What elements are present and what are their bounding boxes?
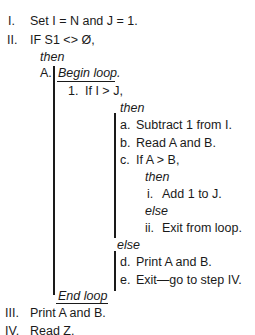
else-keyword: else	[117, 238, 140, 252]
step-c-marker: c.	[120, 153, 130, 167]
begin-loop-label: Begin loop.	[58, 66, 121, 80]
then-keyword: then	[40, 50, 64, 64]
step-I-text: Set I = N and J = 1.	[30, 14, 138, 28]
step-ii-marker: ii.	[145, 221, 154, 235]
end-loop-underline	[56, 303, 108, 304]
step-III-marker: III.	[5, 306, 19, 320]
step-I-marker: I.	[8, 14, 15, 28]
then-keyword: then	[145, 170, 169, 184]
step-A-marker: A.	[40, 66, 52, 80]
step-e-marker: e.	[120, 273, 130, 287]
step-i-text: Add 1 to J.	[162, 187, 222, 201]
step-c-text: If A > B,	[136, 153, 179, 167]
else-keyword: else	[145, 204, 168, 218]
then-keyword: then	[120, 101, 144, 115]
step-a-marker: a.	[120, 118, 130, 132]
step-II-text: IF S1 <> Ø,	[30, 33, 95, 47]
step-IV-marker: IV.	[5, 324, 19, 335]
step-ii-text: Exit from loop.	[162, 221, 242, 235]
step-1-marker: 1.	[68, 84, 78, 98]
step-b-marker: b.	[120, 136, 130, 150]
step-II-marker: II.	[7, 33, 17, 47]
step-I: I.	[8, 14, 15, 28]
loop-bracket-line	[53, 66, 55, 295]
step-a-text: Subtract 1 from I.	[136, 118, 232, 132]
step-IV-text: Read Z.	[30, 324, 74, 335]
step-b-text: Read A and B.	[136, 136, 216, 150]
else-branch-line	[114, 251, 116, 291]
step-d-marker: d.	[120, 255, 130, 269]
step-d-text: Print A and B.	[136, 255, 212, 269]
begin-loop-underline	[57, 81, 115, 82]
step-III-text: Print A and B.	[30, 306, 106, 320]
end-loop-label: End loop	[58, 289, 107, 303]
then-branch-line	[114, 113, 116, 238]
step-e-text: Exit—go to step IV.	[136, 273, 242, 287]
step-i-marker: i.	[147, 187, 153, 201]
step-1-text: If I > J,	[85, 84, 123, 98]
